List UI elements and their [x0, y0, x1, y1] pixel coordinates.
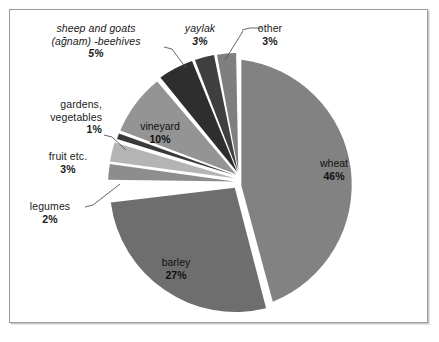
pie-label-gardens-vegetables-line1: gardens,: [25, 98, 102, 111]
pie-label-legumes-name: legumes: [16, 200, 84, 213]
pie-label-barley-name: barley: [140, 256, 212, 269]
pie-label-vineyard: vineyard 10%: [122, 120, 198, 145]
pie-label-yaylak: yaylak 3%: [168, 22, 232, 47]
pie-label-gardens-vegetables: gardens, vegetables 1%: [25, 98, 102, 136]
pie-label-sheep-and-goats-line1: sheep and goats: [26, 22, 166, 35]
pie-label-other-name: other: [240, 22, 300, 35]
pie-label-vineyard-percent: 10%: [122, 133, 198, 146]
pie-label-wheat: wheat 46%: [299, 157, 369, 182]
pie-label-gardens-vegetables-line2: vegetables: [25, 111, 102, 124]
pie-label-wheat-name: wheat: [299, 157, 369, 170]
pie-label-sheep-and-goats-line2: (ağnam) -beehives: [26, 35, 166, 48]
pie-label-fruit: fruit etc. 3%: [34, 150, 102, 175]
pie-label-fruit-name: fruit etc.: [34, 150, 102, 163]
pie-label-sheep-and-goats: sheep and goats (ağnam) -beehives 5%: [26, 22, 166, 60]
chart-screenshot: sheep and goats (ağnam) -beehives 5% yay…: [0, 0, 439, 342]
pie-label-yaylak-name: yaylak: [168, 22, 232, 35]
pie-label-yaylak-percent: 3%: [168, 35, 232, 48]
pie-label-legumes-percent: 2%: [16, 213, 84, 226]
pie-label-other-percent: 3%: [240, 35, 300, 48]
pie-label-legumes: legumes 2%: [16, 200, 84, 225]
pie-slice-barley[interactable]: [111, 188, 266, 312]
pie-chart-plot-area: sheep and goats (ağnam) -beehives 5% yay…: [0, 0, 439, 342]
pie-label-other: other 3%: [240, 22, 300, 47]
pie-label-sheep-and-goats-percent: 5%: [26, 47, 166, 60]
pie-label-fruit-percent: 3%: [34, 163, 102, 176]
pie-label-barley-percent: 27%: [140, 269, 212, 282]
pie-label-barley: barley 27%: [140, 256, 212, 281]
pie-label-vineyard-name: vineyard: [122, 120, 198, 133]
pie-label-wheat-percent: 46%: [299, 170, 369, 183]
pie-label-gardens-vegetables-percent: 1%: [25, 123, 102, 136]
